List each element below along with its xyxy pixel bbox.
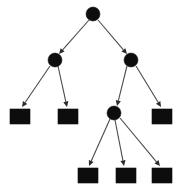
edge-arrowhead-icon xyxy=(116,100,121,106)
tree-edge xyxy=(98,20,123,50)
tree-edge xyxy=(115,120,123,161)
tree-diagram xyxy=(0,0,180,194)
tree-node-leaf xyxy=(152,109,172,124)
edge-arrowhead-icon xyxy=(120,160,125,166)
tree-node-leaf xyxy=(78,168,98,183)
edge-arrowhead-icon xyxy=(63,101,68,107)
edge-layer xyxy=(22,20,161,166)
tree-diagram-canvas xyxy=(0,0,180,194)
tree-node-leaf xyxy=(10,109,30,124)
tree-edge xyxy=(91,119,110,161)
tree-edge xyxy=(136,66,158,102)
tree-node-leaf xyxy=(152,168,172,183)
tree-edge xyxy=(120,118,156,162)
tree-edge xyxy=(58,66,66,102)
tree-node-internal xyxy=(48,53,62,67)
tree-edge xyxy=(25,66,50,102)
node-layer xyxy=(10,7,172,183)
edge-arrowhead-icon xyxy=(22,101,27,107)
tree-node-internal xyxy=(86,7,100,21)
tree-node-internal xyxy=(124,53,138,67)
tree-node-leaf xyxy=(116,168,136,183)
tree-edge xyxy=(118,66,127,101)
tree-node-internal xyxy=(107,106,121,120)
tree-node-leaf xyxy=(58,109,78,124)
tree-edge xyxy=(63,20,89,50)
